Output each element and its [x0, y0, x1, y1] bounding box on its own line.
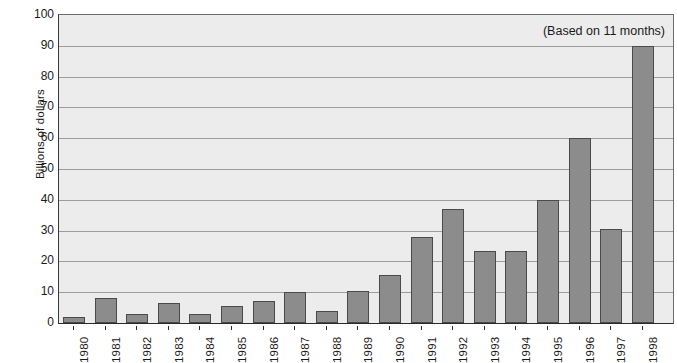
y-tick-label: 100	[18, 7, 54, 21]
x-tick-label: 1981	[110, 331, 122, 363]
x-tick-label: 1998	[647, 331, 659, 363]
plot-area: (Based on 11 months)	[58, 14, 674, 324]
y-tick-label: 60	[18, 130, 54, 144]
bar	[316, 311, 338, 323]
chart-annotation: (Based on 11 months)	[543, 24, 665, 38]
bar	[284, 292, 306, 323]
x-tick-label: 1997	[615, 331, 627, 363]
bar	[505, 251, 527, 323]
bar-chart: Billions of dollars 01020304050607080901…	[0, 0, 677, 363]
x-tick-mark	[357, 326, 358, 330]
x-tick-mark	[579, 326, 580, 330]
x-tick-label: 1996	[584, 331, 596, 363]
x-tick-label: 1991	[426, 331, 438, 363]
x-tick-mark	[547, 326, 548, 330]
y-tick-label: 90	[18, 38, 54, 52]
bar	[63, 317, 85, 323]
x-tick-label: 1995	[552, 331, 564, 363]
y-tick-label: 70	[18, 99, 54, 113]
y-tick-label: 0	[18, 315, 54, 329]
bar	[411, 237, 433, 323]
x-tick-mark	[199, 326, 200, 330]
x-tick-label: 1990	[394, 331, 406, 363]
bar	[158, 303, 180, 323]
x-tick-label: 1989	[362, 331, 374, 363]
y-tick-label: 40	[18, 192, 54, 206]
x-tick-mark	[642, 326, 643, 330]
bar	[442, 209, 464, 323]
x-tick-mark	[168, 326, 169, 330]
x-tick-label: 1987	[299, 331, 311, 363]
x-tick-label: 1980	[78, 331, 90, 363]
x-tick-mark	[389, 326, 390, 330]
bar	[126, 314, 148, 323]
x-tick-mark	[105, 326, 106, 330]
x-tick-label: 1994	[520, 331, 532, 363]
bar	[537, 200, 559, 323]
x-tick-mark	[421, 326, 422, 330]
bar	[600, 229, 622, 323]
bar	[632, 46, 654, 323]
x-tick-mark	[452, 326, 453, 330]
x-tick-mark	[136, 326, 137, 330]
bar	[95, 298, 117, 323]
y-tick-label: 30	[18, 223, 54, 237]
bar	[253, 301, 275, 323]
x-tick-label: 1985	[236, 331, 248, 363]
bar	[474, 251, 496, 323]
x-axis-tick-labels: 1980198119821983198419851986198719881989…	[58, 326, 672, 363]
x-tick-mark	[326, 326, 327, 330]
x-tick-label: 1982	[141, 331, 153, 363]
x-tick-label: 1984	[204, 331, 216, 363]
x-tick-mark	[294, 326, 295, 330]
bar	[221, 306, 243, 323]
x-tick-label: 1986	[268, 331, 280, 363]
bar	[347, 291, 369, 323]
y-tick-label: 10	[18, 284, 54, 298]
bar	[189, 314, 211, 323]
bar	[569, 138, 591, 323]
x-tick-mark	[515, 326, 516, 330]
bars	[59, 15, 673, 323]
x-tick-label: 1992	[457, 331, 469, 363]
y-tick-label: 20	[18, 253, 54, 267]
x-tick-mark	[231, 326, 232, 330]
y-tick-label: 50	[18, 161, 54, 175]
x-tick-mark	[610, 326, 611, 330]
x-tick-label: 1988	[331, 331, 343, 363]
bar	[379, 275, 401, 323]
x-tick-label: 1993	[489, 331, 501, 363]
y-tick-label: 80	[18, 69, 54, 83]
x-tick-mark	[484, 326, 485, 330]
x-tick-mark	[73, 326, 74, 330]
x-tick-mark	[263, 326, 264, 330]
x-tick-label: 1983	[173, 331, 185, 363]
y-axis-tick-labels: 0102030405060708090100	[18, 14, 54, 322]
